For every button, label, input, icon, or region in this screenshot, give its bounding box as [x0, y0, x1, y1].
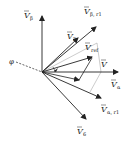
label-v-beta-r1: V β, r1 — [84, 7, 102, 18]
svg-text:α, r1: α, r1 — [107, 109, 119, 115]
v-ref-component-b — [79, 58, 92, 80]
svg-text:6: 6 — [83, 131, 86, 137]
label-v: V — [101, 60, 108, 69]
svg-text:β, r1: β, r1 — [90, 11, 102, 18]
label-v-alpha-r1: V α, r1 — [101, 105, 119, 115]
phi-axis — [16, 62, 42, 72]
svg-text:2: 2 — [73, 36, 76, 42]
v-alpha-r1-vector — [42, 72, 101, 98]
label-v-beta: V β — [24, 11, 33, 22]
svg-text:α: α — [117, 84, 121, 90]
label-phi: φ — [9, 58, 14, 66]
v-ref-component-a — [42, 72, 79, 80]
label-v2: V 2 — [67, 32, 76, 42]
svg-text:ref: ref — [91, 47, 99, 53]
label-v-alpha: V α — [111, 80, 121, 90]
space-vector-diagram: V β V β, r1 V 2 V ref V V α V α, r1 V 6 … — [0, 0, 134, 143]
label-v6: V 6 — [77, 127, 86, 137]
svg-text:β: β — [30, 15, 33, 22]
svg-text:V: V — [101, 60, 108, 69]
